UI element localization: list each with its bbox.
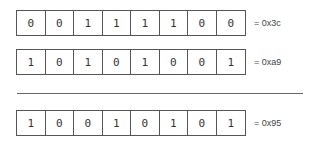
bit-cell: 1 [131,50,160,74]
bit-cell: 1 [17,111,46,135]
bit-cell: 1 [74,11,103,35]
bit-cell: 0 [46,11,75,35]
hex-label: = 0xa9 [254,57,281,67]
bit-cell: 1 [131,11,160,35]
bit-cell: 1 [160,11,189,35]
byte-row-2: 1 0 1 0 1 0 0 1 = 0xa9 [16,49,281,75]
bit-cells: 0 0 1 1 1 1 0 0 [16,10,246,36]
bit-cell: 0 [46,50,75,74]
hex-label: = 0x3c [254,18,281,28]
bit-cell: 1 [217,111,246,135]
bit-cell: 1 [217,50,246,74]
bit-cell: 1 [103,111,132,135]
bit-cell: 1 [103,11,132,35]
bit-cell: 0 [188,11,217,35]
hex-label: = 0x95 [254,118,281,128]
bit-cell: 1 [160,111,189,135]
bit-cell: 0 [17,11,46,35]
result-divider [17,93,303,94]
bit-cell: 0 [131,111,160,135]
bit-cell: 0 [160,50,189,74]
bit-cell: 0 [103,50,132,74]
bit-cells: 1 0 0 1 0 1 0 1 [16,110,246,136]
bit-cell: 0 [74,111,103,135]
bit-cell: 1 [17,50,46,74]
bit-cell: 0 [188,111,217,135]
bit-cell: 0 [217,11,246,35]
bit-cell: 1 [74,50,103,74]
bit-cell: 0 [188,50,217,74]
byte-row-1: 0 0 1 1 1 1 0 0 = 0x3c [16,10,281,36]
bit-cells: 1 0 1 0 1 0 0 1 [16,49,246,75]
bit-cell: 0 [46,111,75,135]
byte-row-result: 1 0 0 1 0 1 0 1 = 0x95 [16,110,281,136]
